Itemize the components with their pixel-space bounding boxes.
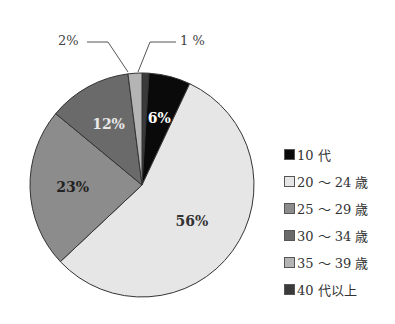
legend-swatch xyxy=(284,176,295,187)
legend-item-40-plus: 40 代以上 xyxy=(284,276,368,303)
legend-label: 35 ～ 39 歳 xyxy=(297,253,368,272)
callout-1pct: 1 % xyxy=(180,33,205,48)
callout-lines xyxy=(87,42,176,72)
legend-swatch xyxy=(284,257,295,268)
callout-2pct: 2% xyxy=(58,33,79,48)
legend-swatch xyxy=(284,203,295,214)
legend-label: 10 代 xyxy=(297,145,331,164)
legend-label: 25 ～ 29 歳 xyxy=(297,199,368,218)
slice-label: 23% xyxy=(56,179,89,195)
legend-item-35-39: 35 ～ 39 歳 xyxy=(284,249,368,276)
slice-label: 12% xyxy=(92,116,125,132)
legend-swatch xyxy=(284,230,295,241)
legend-label: 20 ～ 24 歳 xyxy=(297,172,368,191)
legend: 10 代 20 ～ 24 歳 25 ～ 29 歳 30 ～ 34 歳 35 ～ … xyxy=(284,141,368,303)
legend-item-10s: 10 代 xyxy=(284,141,368,168)
legend-label: 40 代以上 xyxy=(297,280,357,299)
slice-label: 6% xyxy=(148,110,171,126)
legend-swatch xyxy=(284,149,295,160)
legend-item-20-24: 20 ～ 24 歳 xyxy=(284,168,368,195)
slice-label: 56% xyxy=(175,213,208,229)
legend-swatch xyxy=(284,284,295,295)
legend-item-25-29: 25 ～ 29 歳 xyxy=(284,195,368,222)
legend-item-30-34: 30 ～ 34 歳 xyxy=(284,222,368,249)
legend-label: 30 ～ 34 歳 xyxy=(297,226,368,245)
